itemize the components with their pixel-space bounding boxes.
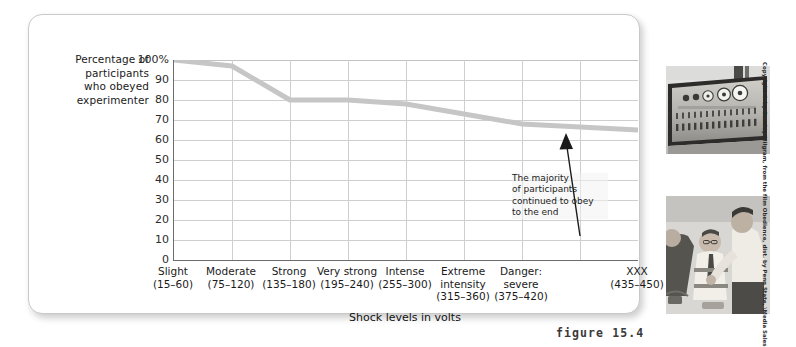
strapping-learner-image xyxy=(666,196,770,314)
photo-shock-generator xyxy=(666,66,770,154)
x-category-7: Danger: severe(375–420) xyxy=(482,265,560,303)
y-tick-label-90: 90 xyxy=(129,73,169,86)
figure-card: Percentage of participants who obeyed ex… xyxy=(28,14,640,314)
x-category-name: Danger: severe xyxy=(482,265,560,290)
y-tick-label-70: 70 xyxy=(129,113,169,126)
x-category-8: XXX(435–450) xyxy=(598,265,676,290)
y-tick-label-60: 60 xyxy=(129,133,169,146)
y-tick-label-40: 40 xyxy=(129,173,169,186)
x-axis-title: Shock levels in volts xyxy=(173,311,637,324)
y-tick-label-10: 10 xyxy=(129,233,169,246)
x-category-range: (375–420) xyxy=(482,290,560,303)
x-category-range: (435–450) xyxy=(598,278,676,291)
y-tick-label-30: 30 xyxy=(129,193,169,206)
annotation-arrow-icon xyxy=(556,133,590,237)
shock-generator-image xyxy=(666,66,770,154)
annotation-line-4: to the end xyxy=(512,207,558,217)
x-axis-categories: Slight(15–60)Moderate(75–120)Strong(135–… xyxy=(173,265,637,311)
figure-number: figure 15.4 xyxy=(556,326,644,340)
photo-strapping-learner xyxy=(666,196,770,314)
y-tick-label-100: 100% xyxy=(129,53,169,66)
x-category-name: XXX xyxy=(598,265,676,278)
photo-credit: Copyright © by Stanley Milgram, from the… xyxy=(758,62,772,314)
y-tick-label-80: 80 xyxy=(129,93,169,106)
y-tick-label-20: 20 xyxy=(129,213,169,226)
y-axis-ticks: 0102030405060708090100% xyxy=(125,60,169,260)
y-tick-label-50: 50 xyxy=(129,153,169,166)
